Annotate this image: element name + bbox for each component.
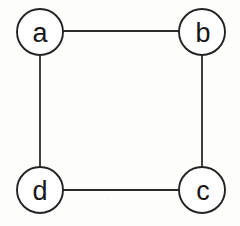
node-c-label: c <box>196 176 210 206</box>
edge-group <box>40 31 202 190</box>
node-group: a b c d <box>17 9 225 213</box>
node-a-label: a <box>32 18 48 48</box>
graph-svg: a b c d <box>0 0 240 226</box>
node-d[interactable]: d <box>17 167 63 213</box>
node-b[interactable]: b <box>179 9 225 55</box>
graph-diagram-canvas: a b c d <box>0 0 240 226</box>
node-d-label: d <box>32 176 47 206</box>
node-b-label: b <box>195 18 210 48</box>
node-c[interactable]: c <box>179 167 225 213</box>
node-a[interactable]: a <box>17 9 63 55</box>
